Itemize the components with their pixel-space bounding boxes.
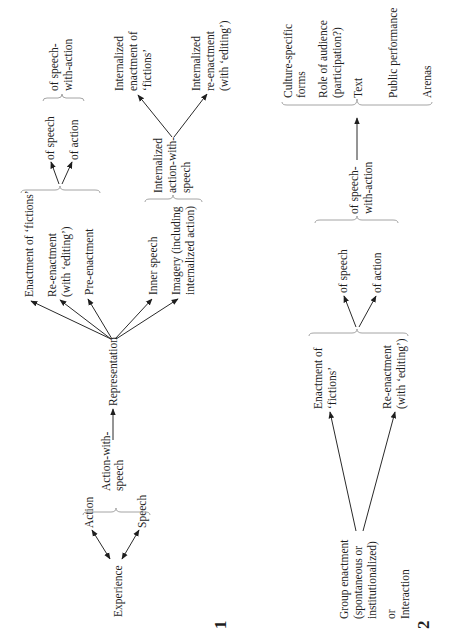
node-of-speech: of speech [44, 116, 57, 160]
node-internalized-aws-line3: speech [180, 161, 193, 193]
diagram-canvas: 1 Experience Action Speech Action-with- … [0, 0, 451, 639]
node-experience: Experience [112, 565, 125, 617]
node-internalized-enactment-line1: Internalized [113, 36, 125, 91]
node-g-of-speech-with-action-line2: with-action [362, 161, 374, 214]
node-internalized-enactment-line3: ‘fictions’ [141, 49, 153, 91]
brace-group-enactments [309, 329, 408, 336]
node-of-speech-with-action-line1: of speech- [48, 43, 61, 91]
label-or: or [385, 609, 397, 619]
node-group-enactment-line1: Group enactment [338, 539, 351, 619]
outcome-role-of-audience-line1: Role of audience [317, 20, 329, 98]
arrow-to-of-speech [51, 162, 59, 184]
arrow-to-g-of-action [359, 296, 376, 327]
node-group-enactment-line2: (spontaneous or [352, 546, 365, 619]
outcome-arenas: Arenas [421, 65, 433, 98]
arrow-to-internalized-enactment [138, 95, 172, 137]
node-internalized-aws-line1: Internalized [152, 138, 164, 193]
brace-inner-imagery [145, 195, 202, 202]
outcome-role-of-audience-line2: (participation?) [331, 27, 344, 98]
node-enactment-fictions: Enactment of ‘fictions’ [23, 190, 35, 297]
node-g-re-enactment-line2: (with ‘editing’) [395, 338, 408, 409]
brace-g-speech-action [315, 216, 398, 223]
node-g-enactment-line2: ‘fictions’ [326, 367, 338, 409]
node-g-of-speech-with-action-line1: of speech- [348, 166, 361, 214]
node-g-of-action: of action [371, 252, 383, 293]
rotated-figure-stage: 1 Experience Action Speech Action-with- … [0, 0, 451, 639]
node-internalized-re-enactment-line1: Internalized [190, 36, 202, 91]
arrow-to-enactment [31, 301, 111, 339]
node-re-enactment-line1: Re-enactment [46, 232, 58, 297]
arrow-to-group-re-enactment [363, 412, 395, 531]
arrow-to-re-enactment [60, 300, 111, 339]
node-group-enactment-line3: institutionalized) [366, 541, 379, 619]
node-internalized-re-enactment-line2: re-enactment [204, 30, 216, 91]
arrow-to-g-of-speech [344, 296, 356, 327]
double-arrow-experience-speech [122, 530, 139, 559]
node-pre-enactment: Pre-enactment [83, 228, 95, 295]
outcome-culture-specific-line2: forms [295, 71, 307, 98]
node-g-enactment-line1: Enactment of [312, 347, 324, 409]
node-imagery-line2: internalized action) [184, 206, 197, 295]
node-g-of-speech: of speech [337, 249, 350, 293]
figure-2-number: 2 [414, 621, 433, 630]
node-of-speech-with-action-line2: with-action [62, 38, 74, 91]
outcome-text: Text [352, 77, 364, 98]
double-arrow-experience-action [92, 530, 110, 559]
node-g-re-enactment-line1: Re-enactment [381, 344, 393, 409]
figure-2: 2 Group enactment (spontaneous or instit… [282, 8, 433, 629]
figure-1: 1 Experience Action Speech Action-with- … [21, 20, 231, 629]
node-interaction: Interaction [399, 569, 411, 619]
node-internalized-enactment-line2: enactment of [127, 31, 139, 91]
diagram-page: 1 Experience Action Speech Action-with- … [0, 0, 451, 639]
figure-1-number: 1 [211, 621, 230, 630]
brace-outcomes [282, 99, 432, 105]
node-action-with-speech-line2: speech [113, 459, 126, 491]
node-of-action: of action [68, 119, 80, 160]
brace-speech-action [43, 94, 84, 101]
arrow-to-internalized-re-enactment [174, 94, 207, 137]
outcome-culture-specific-line1: Culture-specific [282, 24, 295, 98]
node-internalized-re-enactment-line3: (with ‘editing’) [218, 20, 231, 91]
node-imagery-line1: Imagery (including [170, 206, 183, 295]
outcome-public-performance: Public performance [387, 8, 400, 98]
arrow-to-group-enactment-fictions [330, 412, 356, 531]
node-speech: Speech [136, 495, 149, 528]
arrow-to-of-action [62, 162, 72, 184]
arrow-to-pre-enactment [88, 299, 112, 339]
node-action-with-speech-line1: Action-with- [100, 431, 112, 491]
node-re-enactment-line2: (with ‘editing’) [60, 226, 73, 297]
node-inner-speech: Inner speech [147, 236, 160, 295]
node-internalized-aws-line2: action-with- [166, 137, 178, 193]
node-representation: Representation [107, 337, 120, 406]
